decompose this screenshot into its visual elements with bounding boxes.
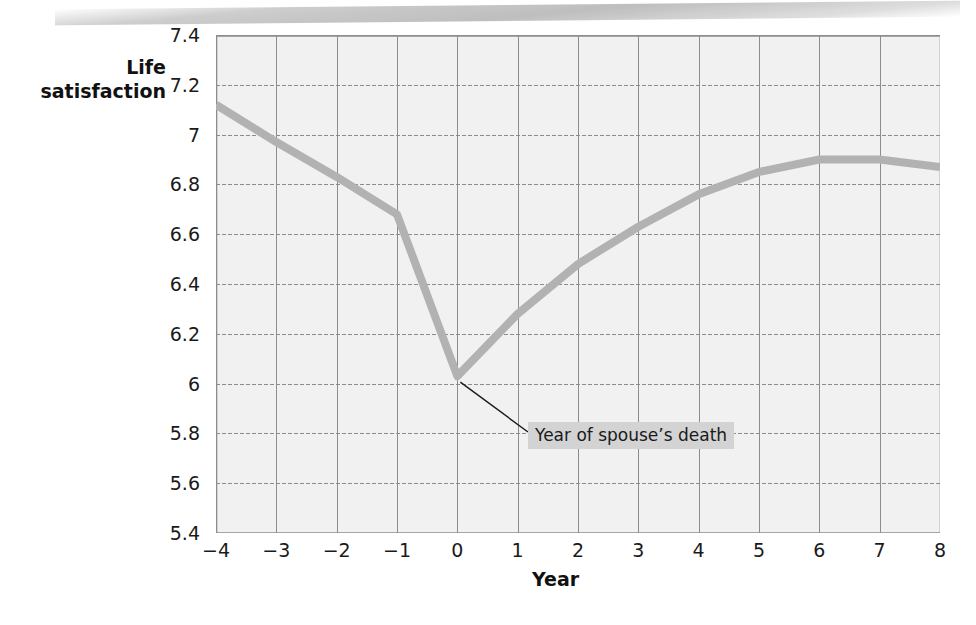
x-tick-label: −3 (254, 541, 298, 560)
y-tick-label: 6.4 (130, 275, 200, 294)
x-tick-label: 6 (797, 541, 841, 560)
x-tick-label: 4 (677, 541, 721, 560)
y-tick-label: 7.4 (130, 26, 200, 45)
y-tick-label: 6.6 (130, 225, 200, 244)
x-tick-label: 3 (616, 541, 660, 560)
y-tick-label: 6.2 (130, 325, 200, 344)
y-tick-label: 5.8 (130, 424, 200, 443)
y-tick-label: 6.8 (130, 175, 200, 194)
decorative-top-bar (55, 1, 960, 26)
plot-area (216, 35, 940, 533)
x-axis-title: Year (532, 568, 579, 590)
chart-container: Life satisfaction 7.47.276.86.66.46.265.… (0, 0, 976, 625)
x-tick-label: 8 (918, 541, 962, 560)
x-tick-label: −1 (375, 541, 419, 560)
y-tick-label: 6 (130, 375, 200, 394)
life-satisfaction-line (216, 35, 940, 533)
x-tick-label: 7 (858, 541, 902, 560)
y-tick-label: 5.6 (130, 474, 200, 493)
y-tick-label: 7.2 (130, 76, 200, 95)
x-tick-label: 5 (737, 541, 781, 560)
x-tick-label: 0 (435, 541, 479, 560)
annotation-label: Year of spouse’s death (528, 422, 734, 449)
x-tick-label: −2 (315, 541, 359, 560)
y-tick-label: 7 (130, 126, 200, 145)
y-tick-label: 5.4 (130, 524, 200, 543)
x-tick-label: −4 (194, 541, 238, 560)
x-tick-label: 1 (496, 541, 540, 560)
x-tick-label: 2 (556, 541, 600, 560)
